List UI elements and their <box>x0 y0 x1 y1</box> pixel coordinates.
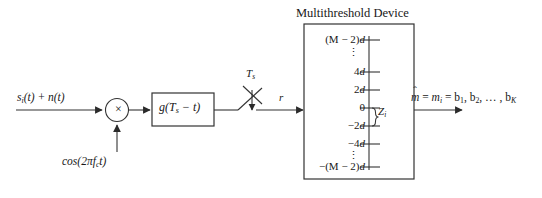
input-signal-label: si(t) + n(t) <box>17 92 65 105</box>
threshold-ladder-labels: (M − 2)d ⋮ 4d 2d 0 −2d −4d ⋮ −(M − 2)d <box>300 0 365 198</box>
sampling-period-label: Ts <box>246 68 255 81</box>
hat-accent-icon: ˆ <box>413 85 417 96</box>
sampler-switch-arm[interactable] <box>238 88 262 110</box>
carrier-oscillator-label: cos(2πfct) <box>62 156 106 169</box>
threshold-level-label: −2d <box>348 120 365 131</box>
receiver-block-diagram: si(t) + n(t) × cos(2πfct) g(Ts − t) Ts r… <box>0 0 542 198</box>
multiply-icon: × <box>115 103 122 115</box>
matched-filter-label: g(Ts − t) <box>159 101 200 115</box>
threshold-level-label: −(M − 2)d <box>319 161 365 172</box>
threshold-level-label: 4d <box>354 66 365 77</box>
threshold-level-label: 0 <box>360 102 366 113</box>
threshold-level-label: 2d <box>354 84 365 95</box>
threshold-level-label: −4d <box>348 138 365 149</box>
decision-variable-label: Zi <box>378 106 386 119</box>
threshold-level-label: (M − 2)d <box>325 34 365 45</box>
sampled-signal-label: r <box>279 92 283 103</box>
threshold-dots-upper: ⋮ <box>348 47 359 58</box>
output-estimate-label: ˆm = mi = b1, b2, … , bK <box>411 92 516 105</box>
